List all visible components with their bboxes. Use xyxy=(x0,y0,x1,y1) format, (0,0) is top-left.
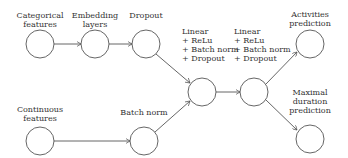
node-linear2 xyxy=(240,78,268,106)
node-categorical xyxy=(26,30,54,58)
label-activities: Activities prediction xyxy=(289,10,331,28)
node-duration xyxy=(296,125,324,153)
node-continuous xyxy=(26,127,54,155)
node-dropout xyxy=(132,30,160,58)
label-embedding: Embedding layers xyxy=(72,11,118,29)
node-activities xyxy=(296,30,324,58)
label-linear2: Linear + ReLu + Batch norm + Dropout xyxy=(234,27,291,63)
label-duration: Maximal duration prediction xyxy=(289,88,331,115)
node-batchnorm xyxy=(130,127,158,155)
node-linear1 xyxy=(188,78,216,106)
label-dropout: Dropout xyxy=(129,11,162,20)
label-batchnorm: Batch norm xyxy=(120,108,167,117)
node-embedding xyxy=(81,30,109,58)
label-categorical: Categorical features xyxy=(17,11,64,29)
label-continuous: Continuous features xyxy=(17,105,63,123)
label-linear1: Linear + ReLu + Batch norm + Dropout xyxy=(182,27,239,63)
